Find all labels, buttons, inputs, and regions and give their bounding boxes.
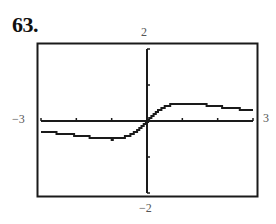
graph-screen (0, 0, 276, 224)
